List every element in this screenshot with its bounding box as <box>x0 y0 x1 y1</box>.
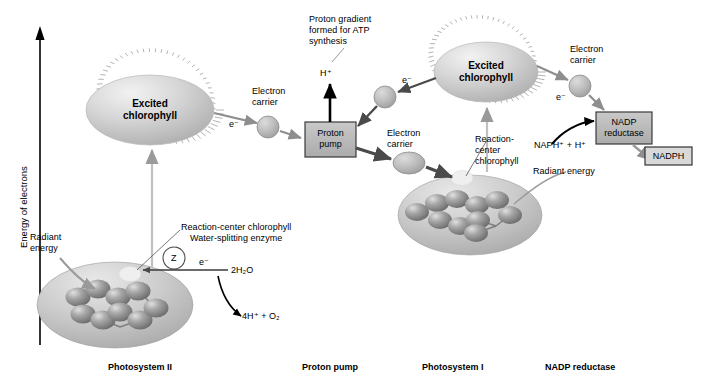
radiant-energy-psi-label: Radiant energy <box>533 166 595 177</box>
arrow-pump-to-carrier3 <box>356 148 391 159</box>
photosystem-ii-complex <box>37 262 193 348</box>
photosystem-i-complex <box>398 171 542 256</box>
arrow-carrier4-to-reductase <box>589 95 604 110</box>
electron-carrier-3-label: Electron carrier <box>387 128 420 150</box>
excited-chlorophyll-psi-line1: Excited <box>468 60 504 71</box>
stage-label-photosystem-ii: Photosystem II <box>108 362 172 372</box>
stage-label-proton-pump: Proton pump <box>302 362 358 372</box>
water-splitting-enzyme-label: Water-splitting enzyme <box>190 233 282 244</box>
e-minus-1-label: e⁻ <box>229 119 239 130</box>
nadph-box-label: NADPH <box>645 151 692 162</box>
proton-gradient-leader <box>332 48 344 62</box>
electron-carrier-4-label: Electron carrier <box>570 44 603 66</box>
e-minus-4-label: e⁻ <box>199 257 209 268</box>
leader-water-splitting-enzyme <box>176 247 181 249</box>
excited-chlorophyll-psi-label: Excitedchlorophyll <box>446 60 526 84</box>
nadp-input-label: NAPH⁺ + H⁺ <box>534 140 586 151</box>
arrow-water-products <box>218 276 241 316</box>
radiant-energy-psii-label: Radiant energy <box>30 232 61 254</box>
arrow-carrier3-to-psi <box>426 167 452 177</box>
electron-carrier-1-circle <box>257 116 279 138</box>
excited-chlorophyll-psi-line2: chlorophyll <box>459 72 513 83</box>
excited-chlorophyll-psii <box>86 48 224 145</box>
excited-chlorophyll-psii-label: Excitedchlorophyll <box>110 98 190 122</box>
photosynthesis-diagram: Energy of electrons Excitedchlorophyll E… <box>0 0 706 388</box>
proton-pump-line1: Proton <box>317 128 344 138</box>
energy-axis-label: Energy of electrons <box>18 166 29 248</box>
nadp-reductase-line2: reductase <box>604 128 644 138</box>
proton-pump-line2: pump <box>319 139 342 149</box>
stage-label-nadp-reductase: NADP reductase <box>545 362 615 372</box>
leader-reaction-center-psii <box>137 230 180 270</box>
electron-carrier-3-oval <box>393 152 425 174</box>
proton-pump-box-label: Protonpump <box>305 128 356 150</box>
excited-chlorophyll-psii-line2: chlorophyll <box>123 110 177 121</box>
water-products-label: 4H⁺ + O₂ <box>242 311 280 322</box>
proton-gradient-label: Proton gradient formed for ATP synthesis <box>309 14 371 47</box>
water-input-label: 2H₂O <box>231 265 253 276</box>
reaction-center-psi-label: Reaction- center chlorophyll <box>475 134 519 167</box>
nadp-reductase-box-label: NADPreductase <box>596 117 652 139</box>
h-plus-label: H⁺ <box>320 68 332 79</box>
nadp-reductase-line1: NADP <box>611 117 636 127</box>
electron-carrier-2-circle <box>374 86 396 108</box>
electron-carrier-1-label: Electron carrier <box>252 86 285 108</box>
reaction-center-psii-label: Reaction-center chlorophyll <box>181 222 291 233</box>
arrow-carrier1-to-pump <box>280 131 301 138</box>
arrow-psi-to-carrier4 <box>537 66 568 80</box>
excited-chlorophyll-psii-line1: Excited <box>132 98 168 109</box>
electron-carrier-4-circle <box>569 75 591 97</box>
enzyme-symbol-label: Z <box>171 253 177 264</box>
e-minus-3-label: e⁻ <box>556 92 566 103</box>
e-minus-2-label: e⁻ <box>402 75 412 86</box>
arrow-carrier2-to-pump <box>358 106 377 126</box>
stage-label-photosystem-i: Photosystem I <box>422 362 484 372</box>
